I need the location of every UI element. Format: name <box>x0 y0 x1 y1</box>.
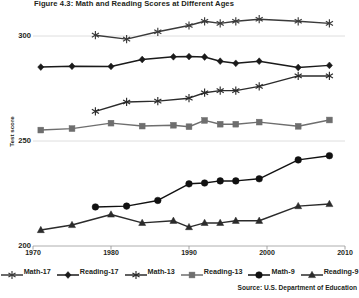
data-point-diamond <box>65 272 71 279</box>
series-reading-13 <box>38 117 332 133</box>
data-point-diamond <box>217 58 223 65</box>
x-tick-label: 2010 <box>330 249 359 256</box>
data-point-circle <box>256 176 263 183</box>
data-point-circle <box>123 203 130 210</box>
data-point-square <box>108 120 114 126</box>
data-point-circle <box>233 178 240 185</box>
data-point-diamond <box>326 62 332 69</box>
series-line <box>41 204 330 230</box>
legend-marker-asterisk-icon <box>1 266 23 276</box>
series-line <box>95 76 329 111</box>
data-point-circle <box>256 272 263 279</box>
data-point-square <box>186 124 192 130</box>
data-point-diamond <box>69 63 75 70</box>
data-point-square <box>189 272 195 278</box>
chart-legend: Math-17Reading-17Math-13Reading-13Math-9… <box>0 264 359 278</box>
data-point-diamond <box>256 58 262 65</box>
data-point-square <box>69 126 75 132</box>
data-point-square <box>202 118 208 124</box>
legend-label: Math-17 <box>24 267 51 276</box>
data-point-circle <box>295 157 302 164</box>
legend-item-reading-9[interactable]: Reading-9 <box>301 266 359 276</box>
legend-item-reading-13[interactable]: Reading-13 <box>181 266 243 276</box>
data-point-circle <box>217 178 224 185</box>
data-point-triangle <box>108 211 115 217</box>
x-tick-label: 1970 <box>18 249 48 256</box>
legend-marker-diamond-icon <box>57 266 79 276</box>
data-point-diamond <box>186 53 192 60</box>
data-point-circle <box>326 152 333 159</box>
data-point-circle <box>155 197 162 204</box>
legend-label: Math-9 <box>271 267 294 276</box>
data-point-circle <box>201 180 208 187</box>
data-point-circle <box>186 181 193 188</box>
series-math-9 <box>92 152 333 210</box>
legend-marker-circle-icon <box>248 266 270 276</box>
series-line <box>95 156 329 207</box>
data-point-square <box>217 121 223 127</box>
data-point-diamond <box>233 60 239 67</box>
series-line <box>41 57 330 68</box>
legend-label: Reading-9 <box>324 267 359 276</box>
y-tick-label: 250 <box>5 136 31 145</box>
series-line <box>41 120 330 130</box>
data-point-square <box>139 123 145 129</box>
legend-item-reading-17[interactable]: Reading-17 <box>57 266 119 276</box>
series-reading-9 <box>37 200 333 232</box>
legend-item-math-9[interactable]: Math-9 <box>248 266 294 276</box>
legend-marker-square-icon <box>181 266 203 276</box>
legend-item-math-17[interactable]: Math-17 <box>1 266 51 276</box>
x-tick-label: 2000 <box>252 249 282 256</box>
legend-marker-asterisk-icon <box>125 266 147 276</box>
data-point-diamond <box>202 54 208 61</box>
data-point-circle <box>92 204 99 211</box>
series-math-17 <box>92 15 333 43</box>
data-point-diamond <box>295 64 301 71</box>
data-point-square <box>295 123 301 129</box>
data-point-square <box>256 119 262 125</box>
legend-item-math-13[interactable]: Math-13 <box>125 266 175 276</box>
data-point-square <box>171 122 177 128</box>
x-tick-label: 1990 <box>174 249 204 256</box>
data-point-square <box>38 127 44 133</box>
series-reading-17 <box>38 53 333 71</box>
legend-label: Reading-17 <box>80 267 119 276</box>
data-point-diamond <box>108 63 114 70</box>
legend-marker-triangle-icon <box>301 266 323 276</box>
figure-container: Figure 4.3: Math and Reading Scores at D… <box>0 0 359 298</box>
x-tick-label: 1980 <box>96 249 126 256</box>
source-note: Source: U.S. Department of Education <box>238 284 357 291</box>
legend-label: Reading-13 <box>204 267 243 276</box>
legend-label: Math-13 <box>148 267 175 276</box>
series-math-13 <box>92 72 333 116</box>
data-point-diamond <box>139 56 145 63</box>
x-axis-ticks: 19701980199020002010 <box>0 249 359 263</box>
data-point-square <box>327 117 333 123</box>
data-point-diamond <box>170 53 176 60</box>
data-point-square <box>233 121 239 127</box>
data-point-diamond <box>38 64 44 71</box>
y-tick-label: 300 <box>5 31 31 40</box>
